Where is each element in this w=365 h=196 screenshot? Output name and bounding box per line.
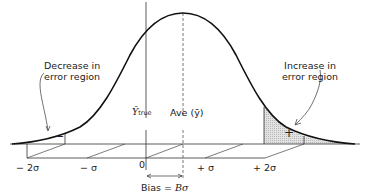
decrease-note-line2: error region bbox=[44, 71, 100, 82]
bias-label-value: Bσ bbox=[175, 182, 188, 193]
tick-minus-2-sigma: − 2σ bbox=[16, 162, 39, 173]
minus-sign: − bbox=[55, 131, 64, 142]
tick-plus-2-sigma: + 2σ bbox=[253, 162, 276, 173]
decrease-error-note: Decrease in error region bbox=[44, 60, 100, 82]
y-true-subscript: true bbox=[138, 109, 151, 117]
average-label: Ave (ȳ) bbox=[170, 107, 203, 118]
bias-label: Bias = Bσ bbox=[141, 182, 188, 193]
base-hatch-lines bbox=[27, 144, 304, 158]
diagram-canvas bbox=[0, 0, 365, 196]
tick-zero: 0 bbox=[139, 159, 145, 170]
plus-sign: + bbox=[284, 128, 294, 139]
increase-note-line1: Increase in bbox=[282, 60, 338, 71]
bias-label-text: Bias = bbox=[141, 182, 175, 193]
increase-error-shaded-region bbox=[264, 107, 355, 144]
tick-minus-sigma: − σ bbox=[80, 162, 97, 173]
decrease-note-line1: Decrease in bbox=[44, 60, 100, 71]
increase-note-line2: error region bbox=[282, 71, 338, 82]
tick-plus-sigma: + σ bbox=[197, 162, 214, 173]
bias-normal-distribution-diagram: Decrease in error region Increase in err… bbox=[0, 0, 365, 196]
y-true-label: Ȳtrue bbox=[132, 106, 152, 119]
increase-error-note: Increase in error region bbox=[282, 60, 338, 82]
